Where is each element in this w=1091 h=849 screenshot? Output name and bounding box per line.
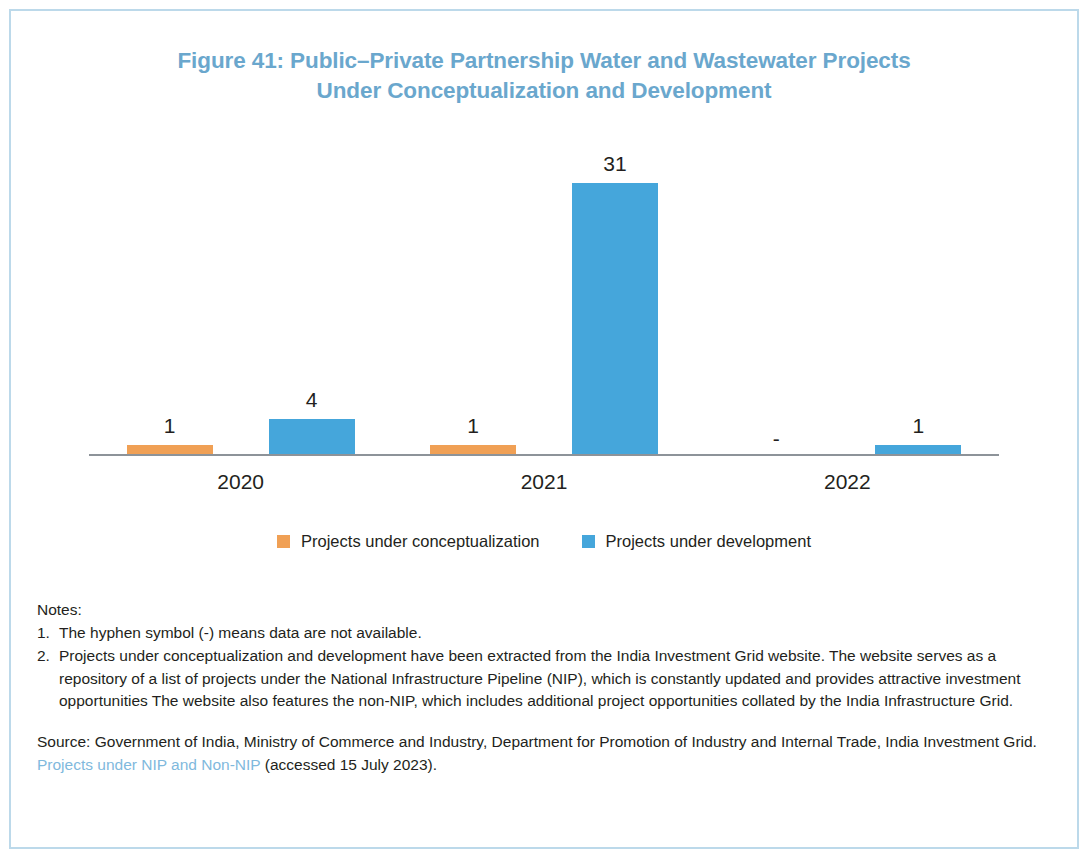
bar-2021-conceptualization[interactable] [430,445,516,454]
note-text-2: Projects under conceptualization and dev… [59,645,1059,713]
bar-2021-development[interactable] [572,183,658,454]
note-number-2: 2. [37,645,59,668]
legend-swatch-conceptualization-icon [277,535,290,548]
x-tick-2021: 2021 [392,470,695,494]
legend-swatch-development-icon [582,535,595,548]
bar-slot-2020-development: 4 [269,106,355,454]
x-tick-2022: 2022 [696,470,999,494]
bar-2022-development[interactable] [875,445,961,454]
chart-legend: Projects under conceptualization Project… [11,494,1077,551]
x-axis-tick-labels: 2020 2021 2022 [89,456,999,494]
x-axis-line [89,454,999,456]
legend-label-conceptualization: Projects under conceptualization [301,532,539,551]
source-link[interactable]: Projects under NIP and Non-NIP [37,756,260,773]
figure-title-line-1: Figure 41: Public–Private Partnership Wa… [121,46,967,76]
bar-value-2021-conceptualization: 1 [467,415,479,436]
bar-groups: 1 4 1 31 [89,106,999,454]
note-item-1: 1. The hyphen symbol (-) means data are … [37,622,1059,645]
bar-slot-2022-development: 1 [875,106,961,454]
figure-title: Figure 41: Public–Private Partnership Wa… [11,11,1077,106]
bar-slot-2022-conceptualization: - [733,106,819,454]
source-suffix-text: (accessed 15 July 2023). [260,756,437,773]
note-item-2: 2. Projects under conceptualization and … [37,645,1059,713]
bar-slot-2020-conceptualization: 1 [127,106,213,454]
source-block: Source: Government of India, Ministry of… [11,713,1077,776]
bar-value-2020-development: 4 [306,389,318,410]
bar-group-2020: 1 4 [89,106,392,454]
notes-heading: Notes: [37,599,1059,622]
source-prefix-text: Source: Government of India, Ministry of… [37,733,1037,750]
bar-2020-development[interactable] [269,419,355,454]
notes-block: Notes: 1. The hyphen symbol (-) means da… [11,551,1077,713]
bar-group-2022: - 1 [696,106,999,454]
bar-value-2022-conceptualization: - [773,428,780,449]
note-text-1: The hyphen symbol (-) means data are not… [59,622,1059,645]
bar-slot-2021-development: 31 [572,106,658,454]
legend-item-conceptualization[interactable]: Projects under conceptualization [277,532,539,551]
bar-value-2022-development: 1 [912,415,924,436]
bar-slot-2021-conceptualization: 1 [430,106,516,454]
x-tick-2020: 2020 [89,470,392,494]
legend-item-development[interactable]: Projects under development [582,532,811,551]
bar-2020-conceptualization[interactable] [127,445,213,454]
figure-title-line-2: Under Conceptualization and Development [121,76,967,106]
bar-value-2021-development: 31 [603,153,626,174]
legend-label-development: Projects under development [606,532,811,551]
bar-group-2021: 1 31 [392,106,695,454]
bar-value-2020-conceptualization: 1 [164,415,176,436]
bar-chart-plot-area: 1 4 1 31 [89,106,999,456]
note-number-1: 1. [37,622,59,645]
figure-frame: Figure 41: Public–Private Partnership Wa… [9,9,1079,849]
